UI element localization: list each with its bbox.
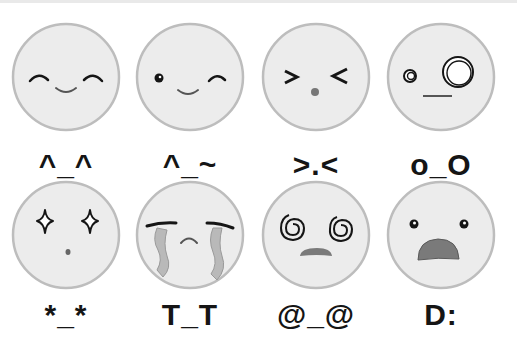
emoticon-shocked: D: bbox=[378, 172, 504, 342]
shocked-face-icon bbox=[378, 172, 504, 298]
emoticon-happy: ^_^ bbox=[3, 14, 129, 184]
emoticon-label: D: bbox=[378, 300, 504, 330]
emoticon-label: *_* bbox=[3, 300, 129, 330]
dizzy-face-icon bbox=[253, 172, 379, 298]
emoticon-confused: o_O bbox=[378, 14, 504, 184]
emoticon-wink: ^_~ bbox=[127, 14, 253, 184]
emoticon-starry-eyed: *_* bbox=[3, 172, 129, 342]
squint-face-icon bbox=[253, 14, 379, 140]
emoticon-label: @_@ bbox=[253, 300, 379, 330]
starry-face-icon bbox=[3, 172, 129, 298]
happy-face-icon bbox=[3, 14, 129, 140]
confused-face-icon bbox=[378, 14, 504, 140]
emoticon-dizzy: @_@ bbox=[253, 172, 379, 342]
crying-face-icon bbox=[127, 172, 253, 298]
emoticon-crying: T_T bbox=[127, 172, 253, 342]
top-border bbox=[0, 0, 517, 3]
emoticon-squint: >.< bbox=[253, 14, 379, 184]
emoticon-label: T_T bbox=[127, 300, 253, 330]
wink-face-icon bbox=[127, 14, 253, 140]
